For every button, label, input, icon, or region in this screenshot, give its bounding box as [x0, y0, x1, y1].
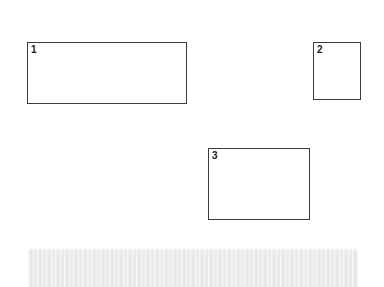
region-box-1[interactable]: 1: [27, 42, 187, 104]
region-label-3: 3: [212, 150, 218, 161]
region-box-3[interactable]: 3: [208, 148, 310, 220]
region-label-2: 2: [317, 44, 323, 55]
redacted-text-band: [28, 248, 358, 287]
region-label-1: 1: [31, 44, 37, 55]
region-box-2[interactable]: 2: [313, 42, 361, 100]
diagram-canvas: 1 2 3: [0, 0, 384, 287]
